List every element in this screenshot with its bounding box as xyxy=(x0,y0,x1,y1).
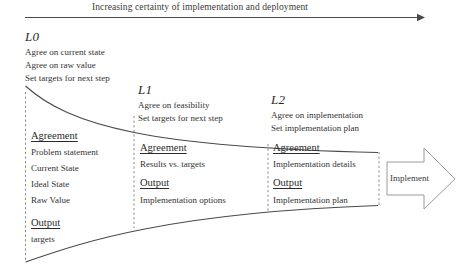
certainty-axis-arrow xyxy=(25,14,425,21)
level-l2-bullet-1: Set implementation plan xyxy=(271,124,359,133)
level-l1-agreement-heading: Agreement xyxy=(140,143,187,154)
level-l0-output-item-0: targets xyxy=(31,235,55,244)
level-l1-label: L1 xyxy=(138,83,152,96)
level-l0-agreement-item-3: Raw Value xyxy=(31,196,70,205)
level-l1-output-heading: Output xyxy=(140,178,169,189)
level-l0-label: L0 xyxy=(25,30,39,43)
level-l2-agreement-heading: Agreement xyxy=(273,143,320,154)
level-l0-agreement-item-2: Ideal State xyxy=(31,180,69,189)
level-l0-bullet-1: Agree on raw value xyxy=(25,61,96,70)
level-l0-bullet-0: Agree on current state xyxy=(25,48,105,57)
level-l0-agreement-item-1: Current State xyxy=(31,164,79,173)
level-l1-bullet-0: Agree on feasibility xyxy=(138,101,209,110)
level-l0-output-heading: Output xyxy=(31,218,60,229)
level-l1-agreement-item-0: Results vs. targets xyxy=(140,160,205,169)
diagram-canvas: Increasing certainty of implementation a… xyxy=(0,0,461,272)
level-l0-bullet-2: Set targets for next step xyxy=(25,74,110,83)
level-l0-header: L0 xyxy=(25,30,39,43)
funnel-bottom-curve xyxy=(26,206,379,263)
level-l1-output-item-0: Implementation options xyxy=(140,196,226,205)
level-l2-bullet-0: Agree on implementation xyxy=(271,111,363,120)
level-l1-bullet-1: Set targets for next step xyxy=(138,114,223,123)
level-l2-output-item-0: Implementation plan xyxy=(273,196,348,205)
certainty-axis-caption: Increasing certainty of implementation a… xyxy=(92,3,308,13)
implement-label: Implement xyxy=(390,174,429,183)
level-l0-agreement-item-0: Problem statement xyxy=(31,148,98,157)
level-l0-agreement-heading: Agreement xyxy=(31,131,78,142)
level-l2-output-heading: Output xyxy=(273,178,302,189)
level-l2-label: L2 xyxy=(271,93,285,106)
level-l2-agreement-item-0: Implementation details xyxy=(273,160,356,169)
